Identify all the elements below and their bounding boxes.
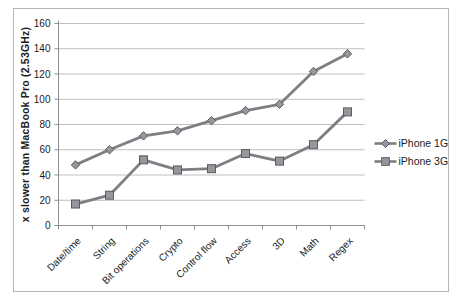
- square-marker: [276, 157, 284, 165]
- diamond-marker: [382, 140, 390, 148]
- x-tick-label: Crypto: [156, 235, 185, 264]
- y-tick-label: 160: [34, 18, 51, 29]
- series-line: [76, 112, 348, 204]
- x-tick-label: Math: [297, 235, 321, 259]
- series-iphone-1g: [71, 50, 351, 170]
- legend-label: iPhone 1G: [399, 137, 449, 149]
- x-tick-labels: Date/timeStringBit operationsCryptoContr…: [45, 235, 355, 287]
- square-marker: [382, 158, 390, 166]
- square-marker: [106, 191, 114, 199]
- y-tick-label: 20: [39, 195, 51, 206]
- square-marker: [174, 166, 182, 174]
- square-marker: [310, 141, 318, 149]
- x-tick-label: Access: [222, 235, 253, 266]
- x-tick-label: Date/time: [45, 235, 83, 273]
- y-axis-title: x slower than MacBook Pro (2.53GHz): [19, 27, 31, 222]
- y-tick-label: 60: [39, 144, 51, 155]
- square-marker: [242, 150, 250, 158]
- y-tick-labels: 020406080100120140160: [34, 18, 51, 231]
- diamond-marker: [173, 127, 181, 135]
- square-marker: [140, 156, 148, 164]
- gridlines: [59, 24, 365, 201]
- x-tick-label: String: [91, 235, 117, 261]
- y-tick-label: 0: [45, 220, 51, 231]
- diamond-marker: [105, 146, 113, 154]
- legend: iPhone 1GiPhone 3GS: [375, 137, 449, 167]
- square-marker: [344, 108, 352, 116]
- legend-item-iphone-1g: iPhone 1G: [375, 137, 449, 149]
- x-tick-label: Regex: [327, 235, 355, 263]
- chart-figure: 020406080100120140160 Date/timeStringBit…: [13, 8, 449, 292]
- line-chart: 020406080100120140160 Date/timeStringBit…: [14, 9, 448, 291]
- legend-label: iPhone 3GS: [399, 155, 449, 167]
- y-tick-label: 140: [34, 43, 51, 54]
- data-series: [71, 50, 351, 208]
- diamond-marker: [139, 132, 147, 140]
- diamond-marker: [207, 117, 215, 125]
- square-marker: [72, 200, 80, 208]
- y-tick-label: 100: [34, 94, 51, 105]
- square-marker: [208, 165, 216, 173]
- x-tick-label: 3D: [270, 235, 287, 252]
- diamond-marker: [241, 106, 249, 114]
- y-tick-label: 40: [39, 170, 51, 181]
- y-tick-label: 80: [39, 119, 51, 130]
- diamond-marker: [71, 161, 79, 169]
- legend-item-iphone-3gs: iPhone 3GS: [375, 155, 449, 167]
- y-tick-label: 120: [34, 69, 51, 80]
